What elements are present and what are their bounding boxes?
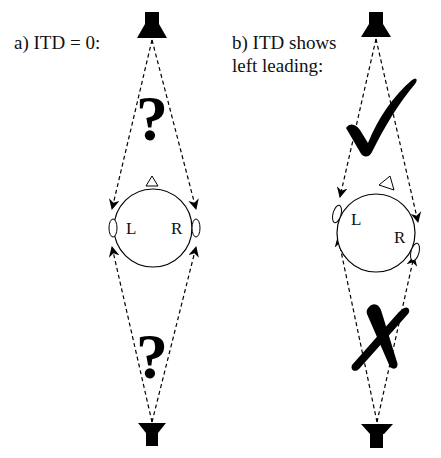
checkmark-icon [346,79,417,157]
cross-icon [352,304,410,371]
question-mark-top-icon: ? [136,83,168,154]
right-ear-label: R [394,228,406,247]
head-icon [331,176,421,272]
head-icon [109,176,200,267]
panel-b: L R [331,12,421,448]
left-ear-icon [109,219,117,237]
question-mark-bottom-icon: ? [136,321,168,392]
right-ear-label: R [171,219,183,238]
left-ear-label: L [126,219,136,238]
sound-path-top-left [340,39,376,197]
speaker-bottom-icon [361,424,393,448]
right-ear-icon [192,219,200,237]
itd-diagram: L R ? ? L R [0,0,441,458]
panel-a: L R ? ? [109,12,200,446]
left-ear-label: L [351,210,361,229]
speaker-bottom-icon [138,423,166,446]
speaker-top-icon [361,12,391,37]
speaker-top-icon [137,12,167,38]
